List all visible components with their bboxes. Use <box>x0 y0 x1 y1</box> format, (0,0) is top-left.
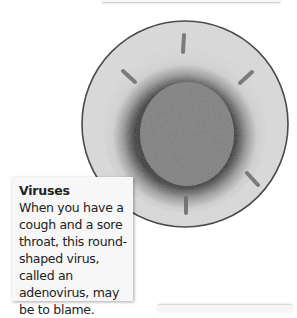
caption-body: When you have a cough and a sore throat,… <box>19 199 127 318</box>
caption-title: Viruses <box>19 183 127 199</box>
caption-box: Viruses When you have a cough and a sore… <box>12 177 133 301</box>
adjacent-panel-bottom-edge <box>158 305 292 313</box>
adjacent-panel-top-edge <box>102 0 280 2</box>
